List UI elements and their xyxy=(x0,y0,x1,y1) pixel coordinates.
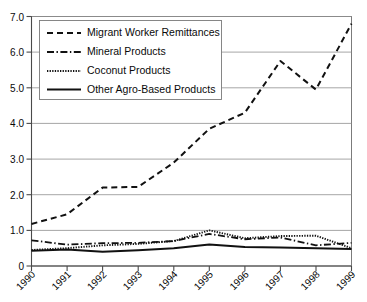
line-chart: 7.0 6.0 5.0 4.0 3.0 2.0 1.0 0 1990 1991 xyxy=(0,0,367,302)
y-tick-label: 0 xyxy=(18,261,24,272)
legend-label: Other Agro-Based Products xyxy=(87,83,215,95)
x-tick-label: 1997 xyxy=(263,268,287,292)
y-tick-label: 6.0 xyxy=(10,47,24,58)
x-tick-label: 1995 xyxy=(192,268,216,292)
series-line-mineral-products xyxy=(32,234,352,245)
legend-label: Coconut Products xyxy=(87,64,170,76)
y-tick-label: 4.0 xyxy=(10,118,24,129)
y-tick-label: 7.0 xyxy=(10,12,24,23)
legend: Migrant Worker Remittances Mineral Produ… xyxy=(40,21,222,100)
chart-canvas: 7.0 6.0 5.0 4.0 3.0 2.0 1.0 0 1990 1991 xyxy=(0,0,367,302)
legend-label: Migrant Worker Remittances xyxy=(87,26,220,38)
y-tick-label: 2.0 xyxy=(10,190,24,201)
x-tick-label: 1996 xyxy=(227,268,251,292)
x-tick-label: 1992 xyxy=(85,268,109,292)
x-tick-label: 1994 xyxy=(156,268,180,292)
x-tick-label: 1991 xyxy=(50,268,74,292)
x-tick-label: 1993 xyxy=(121,268,145,292)
series-line-other-agro-based-products xyxy=(32,245,352,252)
y-tick-label: 3.0 xyxy=(10,154,24,165)
x-tick-marks xyxy=(32,266,352,271)
y-tick-marks xyxy=(27,17,32,267)
x-tick-label: 1998 xyxy=(298,268,322,292)
y-tick-label: 1.0 xyxy=(10,225,24,236)
x-tick-label: 1999 xyxy=(334,268,358,292)
x-tick-labels: 1990 1991 1992 1993 1994 1995 1996 1997 … xyxy=(14,268,358,292)
y-tick-labels: 7.0 6.0 5.0 4.0 3.0 2.0 1.0 0 xyxy=(10,12,24,273)
y-tick-label: 5.0 xyxy=(10,83,24,94)
legend-label: Mineral Products xyxy=(87,45,166,57)
